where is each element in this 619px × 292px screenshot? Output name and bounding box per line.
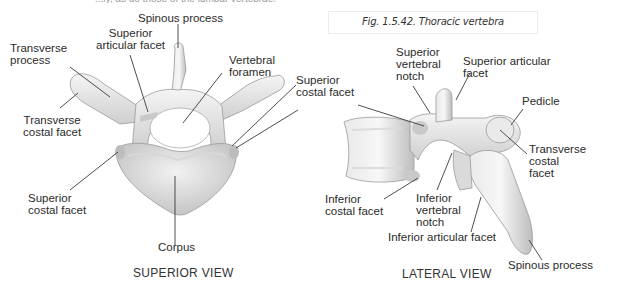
label-vertebral-foramen: Vertebral foramen [229,54,275,78]
label-transverse-costal-facet-superior: Transverse costal facet [23,114,81,138]
label-transverse-process: Transverse process [10,42,67,66]
label-inferior-costal-facet: Inferior costal facet [325,193,383,217]
superior-view-title: SUPERIOR VIEW [133,266,234,280]
label-spinous-process-lateral: Spinous process [508,259,593,271]
label-inferior-articular-facet: Inferior articular facet [388,231,496,243]
label-superior-articular-facet-superior: Superior articular facet [96,27,165,51]
vertebra-illustration [0,0,619,292]
label-inferior-vertebral-notch: Inferior vertebral notch [416,192,461,228]
label-pedicle: Pedicle [522,95,560,107]
lateral-view-title: LATERAL VIEW [402,267,492,281]
label-spinous-process-superior: Spinous process [138,12,223,24]
label-superior-articular-facet-lateral: Superior articular facet [463,55,551,79]
label-superior-vertebral-notch: Superior vertebral notch [396,46,441,82]
label-corpus: Corpus [158,241,195,253]
thoracic-vertebra-figure: Spinous process Superior articular facet… [0,0,619,292]
label-transverse-costal-facet-lateral: Transverse costal facet [529,143,586,179]
label-superior-costal-facet-right: Superior costal facet [296,74,354,98]
label-superior-costal-facet-left: Superior costal facet [28,192,86,216]
